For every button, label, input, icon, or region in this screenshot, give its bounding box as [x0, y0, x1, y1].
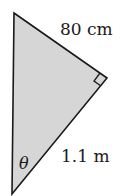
- triangle-diagram: 80 cm 1.1 m θ: [0, 0, 123, 196]
- label-1-1m: 1.1 m: [61, 146, 110, 166]
- label-theta: θ: [19, 154, 29, 173]
- label-80cm: 80 cm: [60, 19, 113, 39]
